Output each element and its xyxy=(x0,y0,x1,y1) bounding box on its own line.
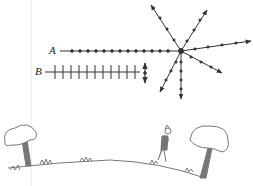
ray-a xyxy=(60,50,181,53)
ray-b-label: B xyxy=(35,66,42,77)
left-tree xyxy=(4,125,36,166)
scattered-rays xyxy=(151,5,251,99)
polarization-diagram xyxy=(0,0,253,186)
ground-scene xyxy=(4,125,228,178)
ray-b xyxy=(45,63,146,83)
observer-person xyxy=(158,125,171,162)
grass-ground xyxy=(8,160,205,178)
ray-a-label: A xyxy=(49,45,56,56)
right-tree xyxy=(190,126,228,178)
